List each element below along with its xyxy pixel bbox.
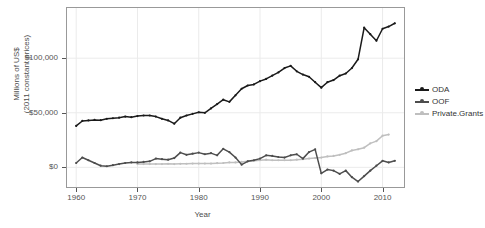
legend-key-swatch xyxy=(415,108,429,119)
data-point xyxy=(290,159,292,161)
data-point xyxy=(93,119,95,121)
data-point xyxy=(308,158,310,160)
data-point xyxy=(210,107,212,109)
data-point xyxy=(149,114,151,116)
data-point xyxy=(345,170,347,172)
data-point xyxy=(234,161,236,163)
data-point xyxy=(75,162,77,164)
legend-item-oda[interactable]: ODA xyxy=(415,84,485,95)
data-point xyxy=(124,162,126,164)
data-point xyxy=(283,159,285,161)
data-point xyxy=(357,180,359,182)
data-point xyxy=(283,67,285,69)
data-point xyxy=(253,83,255,85)
data-point xyxy=(179,117,181,119)
legend-item-oof[interactable]: OOF xyxy=(415,96,485,107)
data-point xyxy=(320,172,322,174)
data-point xyxy=(87,159,89,161)
data-point xyxy=(167,163,169,165)
data-point xyxy=(265,159,267,161)
data-point xyxy=(351,149,353,151)
data-point xyxy=(216,162,218,164)
data-point xyxy=(271,159,273,161)
data-point xyxy=(381,135,383,137)
data-point xyxy=(198,162,200,164)
data-point xyxy=(375,40,377,42)
x-tick-mark xyxy=(383,188,384,192)
data-point xyxy=(259,158,261,160)
data-point xyxy=(106,118,108,120)
data-point xyxy=(241,164,243,166)
data-point xyxy=(375,165,377,167)
data-point xyxy=(155,163,157,165)
y-tick-label: $50,000 xyxy=(0,108,58,117)
data-point xyxy=(136,161,138,163)
y-axis-title-line-2: (2011 constant prices) xyxy=(22,9,32,139)
data-point xyxy=(332,155,334,157)
data-point xyxy=(124,116,126,118)
data-point xyxy=(210,152,212,154)
data-point xyxy=(351,176,353,178)
data-point xyxy=(81,120,83,122)
data-point xyxy=(394,22,396,24)
data-point xyxy=(228,161,230,163)
data-point xyxy=(204,112,206,114)
series-line-private-grants xyxy=(137,135,388,164)
data-point xyxy=(167,119,169,121)
data-point xyxy=(118,117,120,119)
plot-area xyxy=(67,8,404,187)
data-point xyxy=(388,161,390,163)
data-point xyxy=(112,117,114,119)
data-point xyxy=(314,157,316,159)
data-point xyxy=(222,162,224,164)
y-tick-label: $0 xyxy=(0,162,58,171)
data-point xyxy=(130,161,132,163)
plot-panel xyxy=(66,7,405,188)
data-point xyxy=(75,125,77,127)
data-point xyxy=(118,163,120,165)
data-point xyxy=(161,118,163,120)
data-point xyxy=(192,162,194,164)
data-point xyxy=(320,87,322,89)
data-point xyxy=(100,119,102,121)
data-point xyxy=(302,73,304,75)
legend-item-label: ODA xyxy=(432,84,449,95)
data-point xyxy=(222,148,224,150)
x-tick-mark xyxy=(199,188,200,192)
data-point xyxy=(296,153,298,155)
data-point xyxy=(149,163,151,165)
x-tick-label: 1990 xyxy=(238,193,282,202)
legend-key-point xyxy=(420,99,424,103)
data-point xyxy=(198,111,200,113)
data-point xyxy=(332,170,334,172)
data-point xyxy=(265,154,267,156)
data-point xyxy=(339,154,341,156)
y-axis-title: Millions of US$ (2011 constant prices) xyxy=(12,9,32,139)
data-point xyxy=(234,156,236,158)
data-point xyxy=(326,168,328,170)
legend-key-point xyxy=(420,111,424,115)
data-point xyxy=(142,163,144,165)
data-point xyxy=(253,159,255,161)
data-point xyxy=(216,103,218,105)
legend-item-private-grants[interactable]: Private.Grants xyxy=(415,108,485,119)
data-point xyxy=(357,58,359,60)
data-point xyxy=(234,94,236,96)
data-point xyxy=(326,155,328,157)
data-point xyxy=(320,156,322,158)
data-point xyxy=(112,164,114,166)
x-tick-label: 1960 xyxy=(54,193,98,202)
data-point xyxy=(179,163,181,165)
data-point xyxy=(87,119,89,121)
data-point xyxy=(247,160,249,162)
data-point xyxy=(381,160,383,162)
data-point xyxy=(296,159,298,161)
data-point xyxy=(369,142,371,144)
chart-container: Millions of US$ (2011 constant prices) $… xyxy=(0,0,485,228)
y-tick-label: $100,000 xyxy=(0,53,58,62)
data-point xyxy=(345,72,347,74)
data-point xyxy=(369,33,371,35)
data-point xyxy=(283,156,285,158)
x-tick-label: 2010 xyxy=(361,193,405,202)
legend-key-point xyxy=(420,87,424,91)
